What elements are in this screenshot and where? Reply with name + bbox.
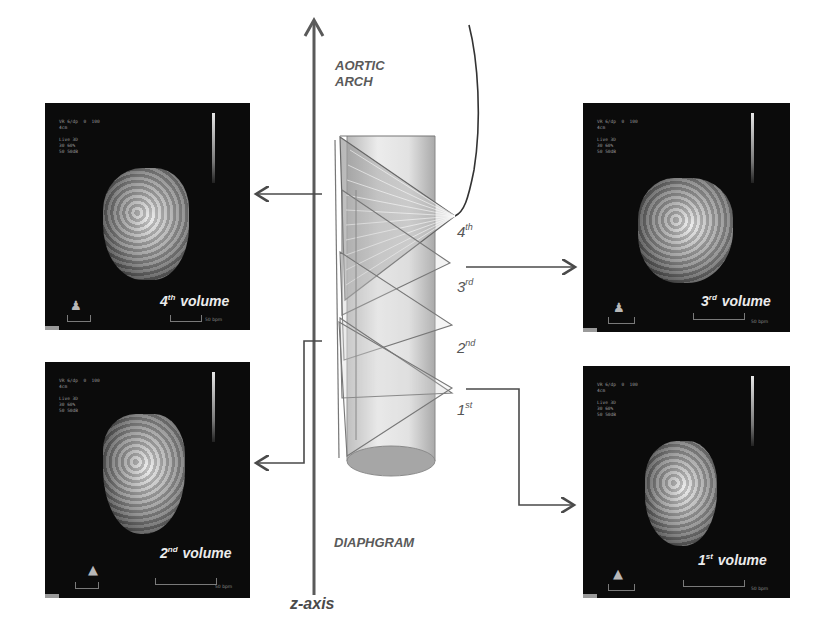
- scale-bar-right: [155, 578, 217, 585]
- sweep-label-4th: 4th: [457, 222, 473, 240]
- ultrasound-panel-2nd-volume: VR 6/dp 0 100 4cm Live 3D 30 60% 50 50dB…: [45, 362, 250, 598]
- ultrasound-panel-4th-volume: VR 6/dp 0 100 4cm Live 3D 30 60% 50 50dB…: [45, 103, 250, 330]
- panel-label-number: 2: [160, 545, 168, 561]
- z-axis-arrow: [305, 20, 323, 595]
- grayscale-bar: [212, 372, 215, 442]
- panel-label-word: volume: [718, 552, 767, 568]
- person-orientation-icon: ▲: [613, 567, 623, 580]
- panel-label-suffix: th: [168, 293, 176, 302]
- scale-text: 50 bpm: [751, 586, 768, 591]
- panel-label: 2nd volume: [160, 545, 231, 561]
- aortic-arch-label-line1: AORTIC: [335, 58, 385, 74]
- grayscale-bar: [751, 376, 754, 446]
- ultrasound-panel-1st-volume: VR 6/dp 0 100 4cm Live 3D 30 60% 50 50dB…: [583, 366, 790, 598]
- aortic-arch-label: AORTIC ARCH: [335, 58, 385, 90]
- scale-bar-right: [683, 580, 745, 587]
- aortic-arch-curve: [455, 25, 478, 216]
- volume-render-image: [103, 414, 185, 534]
- panel-label-number: 4: [160, 293, 168, 309]
- panel-label-suffix: st: [706, 552, 713, 561]
- sweep-suffix: st: [465, 400, 472, 410]
- sweep-suffix: nd: [465, 338, 475, 348]
- aortic-arch-label-line2: ARCH: [335, 74, 385, 90]
- z-axis-label: z-axis: [290, 595, 334, 613]
- diaphragm-label: DIAPHGRAM: [334, 535, 414, 550]
- scale-bar-left: [75, 582, 99, 589]
- scale-text: 50 bpm: [205, 317, 222, 322]
- sweep-suffix: rd: [465, 277, 473, 287]
- arrow-to-1st-volume: [466, 389, 574, 505]
- hud-text: VR 6/dp 0 100 4cm Live 3D 30 60% 50 50dB: [597, 119, 638, 155]
- panel-label: 3rd volume: [701, 293, 771, 309]
- vendor-logo: [45, 326, 59, 330]
- vendor-logo: [583, 594, 597, 598]
- panel-label-word: volume: [180, 293, 229, 309]
- scale-text: 50 bpm: [215, 584, 232, 589]
- sweep-suffix: th: [465, 222, 473, 232]
- vendor-logo: [45, 594, 59, 598]
- person-orientation-icon: ▲: [88, 563, 98, 576]
- person-orientation-icon: ♟: [70, 299, 82, 312]
- panel-label-suffix: nd: [168, 545, 178, 554]
- grayscale-bar: [212, 113, 215, 183]
- volume-render-image: [103, 168, 189, 280]
- scale-bar-right: [170, 315, 202, 322]
- scale-bar-left: [608, 317, 635, 324]
- panel-label-number: 1: [698, 552, 706, 568]
- vendor-logo: [583, 328, 597, 332]
- grayscale-bar: [751, 113, 754, 183]
- sweep-label-1st: 1st: [457, 400, 472, 418]
- panel-label: 4th volume: [160, 293, 229, 309]
- panel-label-word: volume: [722, 293, 771, 309]
- hud-text: VR 6/dp 0 100 4cm Live 3D 30 60% 50 50dB: [59, 119, 100, 155]
- scale-text: 50 bpm: [751, 319, 768, 324]
- scale-bar-right: [693, 313, 745, 320]
- hud-text: VR 6/dp 0 100 4cm Live 3D 30 60% 50 50dB: [597, 382, 638, 418]
- scale-bar-left: [608, 584, 635, 591]
- arrow-to-2nd-volume: [256, 341, 322, 463]
- panel-label-number: 3: [701, 293, 709, 309]
- scale-bar-left: [67, 315, 91, 322]
- panel-label-word: volume: [182, 545, 231, 561]
- panel-label-suffix: rd: [709, 293, 717, 302]
- ultrasound-panel-3rd-volume: VR 6/dp 0 100 4cm Live 3D 30 60% 50 50dB…: [583, 103, 790, 332]
- panel-label: 1st volume: [698, 552, 767, 568]
- volume-render-image: [638, 178, 733, 283]
- volume-render-image: [645, 441, 717, 546]
- sweep-label-3rd: 3rd: [457, 277, 473, 295]
- hud-text: VR 6/dp 0 100 4cm Live 3D 30 60% 50 50dB: [59, 378, 100, 414]
- person-orientation-icon: ♟: [613, 301, 625, 314]
- sweep-label-2nd: 2nd: [457, 338, 475, 356]
